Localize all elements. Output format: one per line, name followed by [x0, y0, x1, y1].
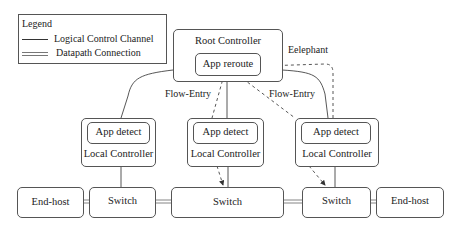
local-controller-3: App detect Local Controller — [295, 118, 379, 167]
root-controller: Root Controller App reroute — [173, 29, 283, 82]
app-reroute-box: App reroute — [195, 53, 261, 76]
flow-entry-label-left: Flow-Entry — [164, 88, 212, 99]
switch-3: Switch — [302, 187, 371, 218]
switch-1: Switch — [89, 187, 156, 218]
app-detect-label: App detect — [88, 126, 149, 137]
switch-2: Switch — [171, 187, 284, 218]
elephant-label: Eelephant — [287, 44, 329, 55]
legend-item-control-channel: Logical Control Channel — [22, 33, 153, 44]
local-controller-label: Local Controller — [188, 148, 263, 159]
app-detect-label: App detect — [194, 126, 257, 137]
local-controller-1: App detect Local Controller — [81, 118, 156, 167]
app-detect-box: App detect — [193, 122, 258, 144]
legend-item-datapath: Datapath Connection — [22, 47, 141, 58]
end-host-label: End-host — [18, 196, 83, 207]
end-host-left: End-host — [17, 187, 84, 218]
end-host-right: End-host — [376, 187, 444, 218]
local-controller-label: Local Controller — [82, 148, 155, 159]
flow-entry-arrow-sw2 — [217, 166, 223, 185]
legend-box: Legend Logical Control Channel Datapath … — [18, 14, 167, 64]
flow-entry-arrow-sw3 — [309, 166, 325, 185]
legend-label: Logical Control Channel — [54, 33, 153, 44]
switch-label: Switch — [303, 195, 370, 206]
local-controller-label: Local Controller — [296, 148, 378, 159]
app-detect-box: App detect — [301, 122, 371, 144]
single-line-swatch-icon — [22, 39, 48, 40]
app-detect-box: App detect — [87, 122, 150, 144]
end-host-label: End-host — [377, 195, 443, 206]
double-line-swatch-icon — [22, 52, 48, 56]
switch-label: Switch — [90, 195, 155, 206]
legend-title: Legend — [22, 18, 52, 29]
legend-label: Datapath Connection — [56, 47, 141, 58]
root-controller-label: Root Controller — [174, 35, 282, 46]
app-detect-label: App detect — [302, 126, 370, 137]
switch-label: Switch — [172, 196, 283, 207]
local-controller-2: App detect Local Controller — [187, 118, 264, 167]
flow-entry-label-right: Flow-Entry — [268, 88, 316, 99]
app-reroute-label: App reroute — [196, 58, 260, 69]
